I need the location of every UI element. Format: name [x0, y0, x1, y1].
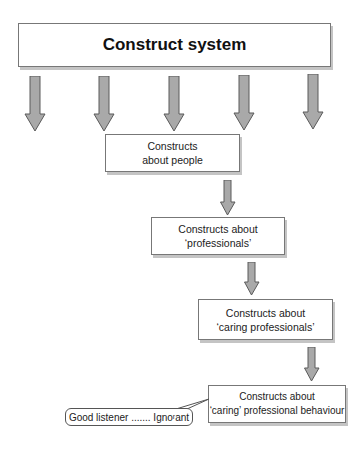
down-arrow-icon — [93, 76, 115, 132]
node-caring-professionals: Constructs about ‘caring professionals’ — [198, 299, 333, 340]
callout-text: Good listener ....... Ignoʳant — [69, 412, 189, 423]
node-caring-behaviour-line2: ‘caring’ professional behaviour — [210, 404, 345, 418]
down-arrow-icon — [220, 180, 236, 216]
down-arrow-icon — [302, 74, 324, 130]
down-arrow-icon — [304, 347, 320, 382]
callout-bubble: Good listener ....... Ignoʳant — [65, 408, 193, 426]
node-caring-professionals-line1: Constructs about — [216, 306, 314, 320]
node-caring-professionals-line2: ‘caring professionals’ — [216, 320, 314, 334]
node-caring-behaviour-line1: Constructs about — [210, 390, 345, 404]
down-arrow-icon — [24, 76, 46, 132]
node-people-line1: Constructs — [142, 139, 203, 153]
down-arrow-icon — [163, 76, 185, 132]
node-professionals-line1: Constructs about — [178, 222, 257, 236]
node-people: Constructs about people — [105, 134, 240, 172]
down-arrow-icon — [233, 75, 255, 131]
construct-system-title: Construct system — [103, 38, 247, 52]
node-people-line2: about people — [142, 153, 203, 167]
construct-system-box: Construct system — [18, 23, 331, 67]
node-professionals-line2: ‘professionals’ — [178, 236, 257, 250]
down-arrow-icon — [244, 262, 260, 296]
node-caring-behaviour: Constructs about ‘caring’ professional b… — [208, 385, 346, 423]
node-professionals: Constructs about ‘professionals’ — [151, 217, 285, 255]
